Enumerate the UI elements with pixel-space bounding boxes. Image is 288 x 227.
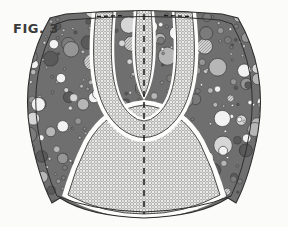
aggregate-particle xyxy=(75,118,81,124)
aggregate-particle xyxy=(119,40,126,47)
aggregate-particle xyxy=(237,191,239,193)
aggregate-particle xyxy=(200,84,202,86)
aggregate-particle xyxy=(63,42,79,58)
aggregate-particle xyxy=(64,88,69,93)
aggregate-particle xyxy=(222,105,225,108)
patent-figure-3: FIG. 3 xyxy=(0,0,288,227)
aggregate-particle xyxy=(114,29,118,33)
aggregate-particle xyxy=(242,134,251,143)
aggregate-particle xyxy=(234,86,238,90)
aggregate-particle xyxy=(162,52,165,55)
aggregate-particle xyxy=(31,69,36,74)
aggregate-particle xyxy=(165,25,169,29)
aggregate-particle xyxy=(191,118,194,121)
aggregate-particle xyxy=(81,50,85,54)
aggregate-particle xyxy=(130,75,133,78)
aggregate-particle xyxy=(82,79,84,81)
aggregate-particle xyxy=(231,59,233,61)
aggregate-particle xyxy=(231,79,237,85)
aggregate-particle xyxy=(151,93,158,100)
aggregate-particle xyxy=(48,157,51,160)
aggregate-particle xyxy=(63,68,65,70)
aggregate-particle xyxy=(56,73,66,83)
aggregate-particle xyxy=(206,69,208,71)
aggregate-particle xyxy=(71,127,73,129)
aggregate-particle xyxy=(219,40,222,43)
aggregate-particle xyxy=(230,53,232,55)
aggregate-particle xyxy=(51,91,54,94)
aggregate-particle xyxy=(158,22,163,27)
aggregate-particle xyxy=(209,58,227,76)
aggregate-particle xyxy=(161,47,164,50)
aggregate-particle xyxy=(57,121,68,132)
aggregate-particle xyxy=(203,13,212,22)
aggregate-particle xyxy=(80,84,84,88)
aggregate-particle xyxy=(161,64,163,66)
aggregate-particle xyxy=(61,176,65,180)
aggregate-particle xyxy=(195,89,200,94)
aggregate-particle xyxy=(237,103,239,105)
aggregate-particle xyxy=(241,54,244,57)
aggregate-particle xyxy=(61,33,63,35)
aggregate-particle xyxy=(43,51,58,66)
aggregate-particle xyxy=(53,146,59,152)
aggregate-particle xyxy=(243,120,245,122)
aggregate-particle xyxy=(209,122,212,125)
aggregate-particle xyxy=(213,102,218,107)
aggregate-particle xyxy=(86,19,91,24)
aggregate-particle xyxy=(125,92,128,95)
aggregate-particle xyxy=(199,59,206,66)
aggregate-particle xyxy=(127,59,132,64)
aggregate-particle xyxy=(170,46,172,48)
aggregate-particle xyxy=(69,159,72,162)
aggregate-particle xyxy=(160,81,163,84)
aggregate-particle xyxy=(29,81,32,84)
aggregate-particle xyxy=(208,88,214,94)
aggregate-particle xyxy=(70,94,78,102)
aggregate-particle xyxy=(62,29,65,32)
aggregate-particle xyxy=(221,160,227,166)
aggregate-particle xyxy=(45,66,47,68)
aggregate-particle xyxy=(74,31,77,34)
aggregate-particle xyxy=(211,15,214,18)
aggregate-particle xyxy=(51,75,54,78)
aggregate-particle xyxy=(56,179,61,184)
aggregate-particle xyxy=(245,82,252,89)
aggregate-particle xyxy=(83,127,86,130)
figure-number-label: FIG. 3 xyxy=(13,21,59,36)
aggregate-particle xyxy=(233,136,241,144)
aggregate-particle xyxy=(231,176,237,182)
aggregate-particle xyxy=(200,27,213,40)
aggregate-particle xyxy=(157,37,164,44)
aggregate-particle xyxy=(234,38,237,41)
aggregate-particle xyxy=(31,97,45,111)
aggregate-particle xyxy=(61,187,64,190)
aggregate-particle xyxy=(138,98,140,100)
aggregate-particle xyxy=(56,36,59,39)
aggregate-particle xyxy=(219,146,228,155)
aggregate-particle xyxy=(214,110,230,126)
aggregate-particle xyxy=(227,95,234,102)
aggregate-particle xyxy=(57,53,59,55)
aggregate-particle xyxy=(49,39,58,48)
aggregate-particle xyxy=(229,28,232,31)
aggregate-particle xyxy=(43,41,46,44)
aggregate-particle xyxy=(72,27,74,29)
aggregate-particle xyxy=(57,153,68,164)
aggregate-particle xyxy=(78,136,81,139)
aggregate-particle xyxy=(84,132,87,135)
aggregate-particle xyxy=(236,164,239,167)
aggregate-particle xyxy=(231,104,233,106)
aggregate-particle xyxy=(62,165,67,170)
aggregate-particle xyxy=(77,99,89,111)
aggregate-particle xyxy=(226,156,228,158)
aggregate-particle xyxy=(36,151,48,163)
aggregate-particle xyxy=(224,37,231,44)
aggregate-particle xyxy=(218,28,224,34)
aggregate-particle xyxy=(230,46,233,49)
aggregate-particle xyxy=(46,127,56,137)
aggregate-particle xyxy=(248,100,252,104)
aggregate-particle xyxy=(217,22,220,25)
aggregate-particle xyxy=(214,86,220,92)
aggregate-particle xyxy=(68,106,72,110)
